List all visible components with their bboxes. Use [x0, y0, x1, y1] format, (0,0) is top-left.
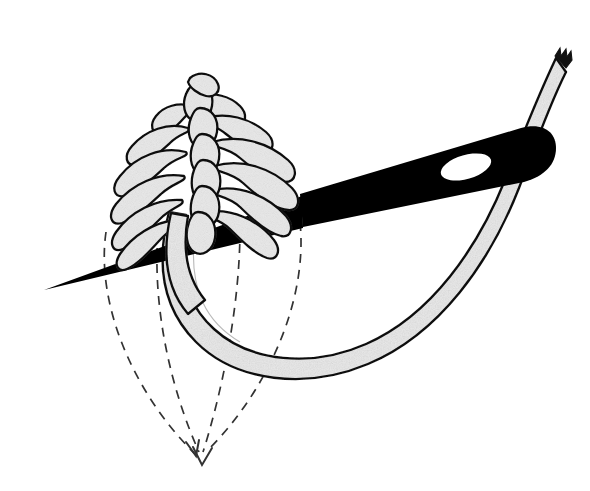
feather-stitch-illustration: Feather Stitch Embroidery Diagram — [0, 0, 590, 491]
stitch-spine-loop — [187, 212, 216, 254]
paper-background — [0, 0, 590, 491]
illustration-root: Feather Stitch Embroidery Diagram — [0, 0, 590, 491]
